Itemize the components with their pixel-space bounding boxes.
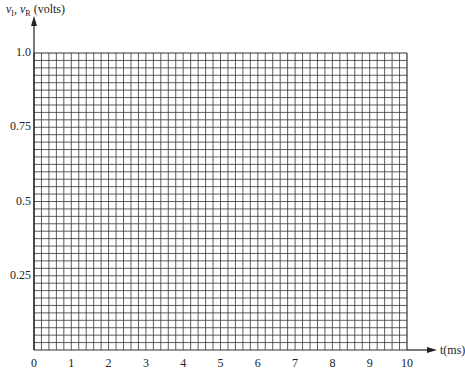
y-tick-label: 0.25 (10, 268, 31, 283)
x-tick-label: 5 (218, 356, 224, 371)
x-tick-label: 9 (367, 356, 373, 371)
y-axis-label: vI, vR (volts) (6, 2, 65, 18)
y-tick-label: 1.0 (16, 45, 31, 60)
x-tick-label: 10 (401, 356, 413, 371)
x-tick-label: 3 (143, 356, 149, 371)
x-tick-label: 6 (255, 356, 261, 371)
x-tick-label: 7 (292, 356, 298, 371)
x-tick-label: 2 (106, 356, 112, 371)
y-tick-label: 0.5 (16, 194, 31, 209)
x-axis-label: t(ms) (440, 343, 465, 358)
x-tick-label: 4 (180, 356, 186, 371)
axes (31, 16, 437, 353)
x-tick-label: 0 (31, 356, 37, 371)
x-tick-label: 8 (329, 356, 335, 371)
y-tick-label: 0.75 (10, 119, 31, 134)
grid-lines (34, 53, 407, 350)
x-tick-label: 1 (68, 356, 74, 371)
x-axis-arrow-icon (427, 347, 437, 353)
